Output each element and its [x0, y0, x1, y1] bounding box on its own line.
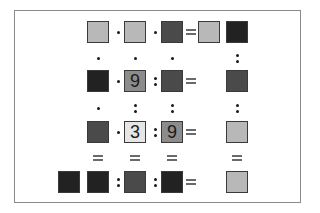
divide-colon-icon: [236, 54, 239, 63]
equals-sign-icon: [167, 155, 177, 161]
puzzle-tile-r1c0[interactable]: [87, 70, 109, 92]
puzzle-tile-r0c2[interactable]: [161, 21, 183, 43]
puzzle-tile-r3c2[interactable]: [161, 171, 183, 193]
divide-colon-icon: [134, 104, 137, 113]
equals-sign-icon: [232, 155, 242, 161]
equals-sign-icon: [130, 155, 140, 161]
divide-colon-icon: [171, 104, 174, 113]
puzzle-tile-r1c1[interactable]: 9: [124, 70, 146, 92]
puzzle-tile-r3cx[interactable]: [58, 171, 80, 193]
multiply-dot-icon: [117, 31, 120, 34]
equals-sign-icon: [186, 179, 196, 185]
divide-colon-icon: [154, 128, 157, 137]
equals-sign-icon: [186, 29, 196, 35]
puzzle-tile-r0c4[interactable]: [226, 21, 248, 43]
puzzle-tile-r3c1[interactable]: [124, 171, 146, 193]
multiply-dot-icon: [154, 31, 157, 34]
equals-sign-icon: [186, 129, 196, 135]
divide-colon-icon: [154, 178, 157, 187]
puzzle-tile-r3c0[interactable]: [87, 171, 109, 193]
divide-colon-icon: [117, 178, 120, 187]
puzzle-tile-r3c4[interactable]: [226, 171, 248, 193]
puzzle-tile-r0c1[interactable]: [124, 21, 146, 43]
multiply-dot-icon: [117, 131, 120, 134]
multiply-dot-icon: [171, 57, 174, 60]
puzzle-tile-r1c4[interactable]: [226, 70, 248, 92]
puzzle-tile-r2c0[interactable]: [87, 121, 109, 143]
multiply-dot-icon: [117, 80, 120, 83]
divide-colon-icon: [154, 77, 157, 86]
puzzle-tile-r0c3[interactable]: [198, 21, 220, 43]
puzzle-tile-r0c0[interactable]: [87, 21, 109, 43]
puzzle-tile-r2c2[interactable]: 9: [161, 121, 183, 143]
puzzle-tile-r1c2[interactable]: [161, 70, 183, 92]
equals-sign-icon: [93, 155, 103, 161]
equals-sign-icon: [186, 78, 196, 84]
puzzle-tile-r2c4[interactable]: [226, 121, 248, 143]
divide-colon-icon: [236, 104, 239, 113]
puzzle-tile-r2c1[interactable]: 3: [124, 121, 146, 143]
multiply-dot-icon: [97, 107, 100, 110]
multiply-dot-icon: [134, 57, 137, 60]
multiply-dot-icon: [97, 57, 100, 60]
